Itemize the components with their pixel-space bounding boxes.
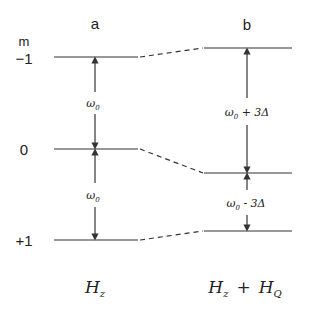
column-label-a: a (91, 15, 100, 32)
hamiltonian-label-a: Hz (84, 277, 106, 299)
connectors (140, 48, 203, 240)
connector-plus1 (140, 231, 203, 240)
transition-label-b-1: ω0 + 3Δ (225, 106, 270, 121)
level-label-minus1: −1 (15, 50, 32, 67)
level-label-0: 0 (20, 141, 28, 158)
levels-a (54, 57, 138, 240)
hamiltonian-label-b: Hz+HQ (207, 277, 281, 299)
column-label-b: b (243, 16, 251, 33)
connector-minus1 (140, 48, 203, 57)
axis-label-m: m (19, 34, 30, 49)
level-label-plus1: +1 (15, 232, 32, 249)
transition-label-a-2: ω0 (86, 189, 100, 204)
transition-label-a-1: ω0 (86, 97, 100, 112)
energy-level-diagram: a b m −1 0 +1 ω0 ω0 ω0 + 3Δ ω0 - 3Δ H (0, 0, 309, 312)
transition-label-b-2: ω0 - 3Δ (226, 197, 265, 212)
connector-0 (140, 149, 203, 173)
